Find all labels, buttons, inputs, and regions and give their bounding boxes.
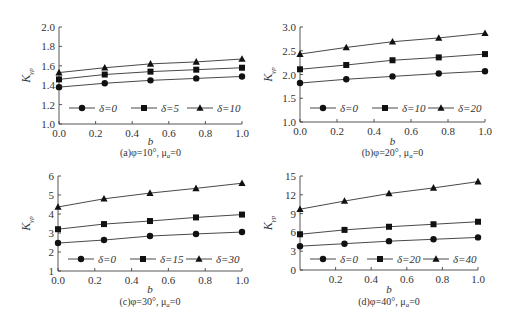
square-marker bbox=[239, 212, 245, 218]
series-square bbox=[297, 51, 488, 72]
triangle-marker bbox=[481, 29, 488, 36]
y-axis-label: Kγp bbox=[19, 68, 35, 84]
legend-label: δ=20 bbox=[397, 253, 421, 265]
diamond-marker bbox=[56, 84, 62, 90]
x-tick-label: 0.2 bbox=[89, 127, 103, 139]
diamond-marker bbox=[386, 238, 392, 244]
triangle-marker bbox=[195, 255, 202, 262]
square-marker bbox=[343, 62, 349, 68]
legend-label: δ=10 bbox=[402, 102, 426, 114]
series-square bbox=[55, 212, 245, 233]
x-tick-label: 0.4 bbox=[364, 273, 378, 285]
y-tick-label: 2.0 bbox=[282, 69, 296, 81]
square-marker bbox=[377, 256, 383, 262]
legend-label: δ=20 bbox=[458, 102, 482, 114]
legend-label: δ=5 bbox=[161, 102, 180, 114]
x-tick-label: 0.6 bbox=[162, 127, 176, 139]
series-diamond bbox=[297, 68, 488, 86]
subplot-caption: (a)φ=10°, μa=0 bbox=[120, 147, 181, 160]
y-tick-label: 1.2 bbox=[41, 99, 55, 111]
x-tick-label: 1.0 bbox=[471, 273, 485, 285]
triangle-marker bbox=[238, 55, 245, 62]
y-tick-label: 4 bbox=[49, 208, 55, 220]
x-tick-label: 0.2 bbox=[329, 273, 343, 285]
square-marker bbox=[193, 214, 199, 220]
x-tick-label: 1.0 bbox=[478, 125, 492, 137]
series-triangle bbox=[296, 29, 488, 57]
y-tick-label: 6 bbox=[291, 226, 297, 238]
y-tick-label: 3 bbox=[291, 245, 297, 257]
x-tick-label: 0.4 bbox=[367, 125, 381, 137]
triangle-marker bbox=[196, 104, 203, 111]
square-marker bbox=[239, 65, 245, 71]
square-marker bbox=[55, 226, 61, 232]
square-marker bbox=[297, 231, 303, 237]
diamond-marker bbox=[430, 236, 436, 242]
diamond-marker bbox=[482, 68, 488, 74]
square-marker bbox=[390, 57, 396, 63]
legend: δ=0δ=10δ=20 bbox=[310, 102, 482, 114]
legend: δ=0δ=15δ=30 bbox=[68, 253, 240, 265]
square-marker bbox=[193, 67, 199, 73]
y-tick-label: 6 bbox=[49, 170, 55, 182]
triangle-marker bbox=[474, 178, 481, 185]
diamond-marker bbox=[79, 105, 85, 111]
legend: δ=0δ=20δ=40 bbox=[310, 253, 477, 265]
subplot-a: 1.01.21.41.61.82.00.00.20.40.60.81.0Kγpb… bbox=[19, 21, 249, 160]
legend-entry: δ=5 bbox=[131, 102, 180, 114]
diamond-marker bbox=[102, 80, 108, 86]
legend-label: δ=0 bbox=[340, 102, 359, 114]
x-axis-label: b bbox=[147, 283, 153, 295]
series-diamond bbox=[56, 73, 245, 90]
x-tick-label: 0.6 bbox=[400, 273, 414, 285]
square-marker bbox=[148, 69, 154, 75]
square-marker bbox=[140, 256, 146, 262]
triangle-marker bbox=[432, 255, 439, 262]
series-triangle bbox=[54, 179, 245, 209]
y-tick-label: 5 bbox=[49, 189, 55, 201]
y-tick-label: 9 bbox=[291, 208, 297, 220]
x-axis-label: b bbox=[148, 135, 154, 147]
square-marker bbox=[297, 66, 303, 72]
triangle-marker bbox=[238, 179, 245, 186]
y-tick-label: 3.0 bbox=[282, 21, 296, 33]
diamond-marker bbox=[239, 73, 245, 79]
x-tick-label: 0.8 bbox=[199, 127, 213, 139]
y-axis-label: Kγp bbox=[261, 67, 277, 83]
legend-entry: δ=40 bbox=[423, 253, 477, 265]
x-tick-label: 0.6 bbox=[162, 274, 176, 286]
x-tick-label: 0.2 bbox=[330, 125, 344, 137]
diamond-marker bbox=[320, 105, 326, 111]
x-tick-label: 0.0 bbox=[51, 274, 65, 286]
legend-entry: δ=20 bbox=[428, 102, 482, 114]
legend-label: δ=10 bbox=[217, 102, 241, 114]
legend-label: δ=40 bbox=[453, 253, 477, 265]
figure-canvas: 1.01.21.41.61.82.00.00.20.40.60.81.0Kγpb… bbox=[0, 0, 518, 324]
subplot-b: 1.01.52.02.53.00.00.20.40.60.81.0Kγpb(b)… bbox=[261, 21, 492, 160]
diamond-marker bbox=[475, 234, 481, 240]
series-square bbox=[297, 219, 481, 238]
x-tick-label: 0.4 bbox=[125, 274, 139, 286]
square-marker bbox=[482, 51, 488, 57]
x-tick-label: 0.4 bbox=[125, 127, 139, 139]
legend-entry: δ=10 bbox=[372, 102, 426, 114]
subplot-caption: (d)φ=40°, μa=0 bbox=[358, 296, 420, 309]
legend-entry: δ=0 bbox=[310, 102, 359, 114]
legend-label: δ=0 bbox=[98, 253, 117, 265]
x-tick-label: 0.8 bbox=[441, 125, 455, 137]
diamond-marker bbox=[101, 237, 107, 243]
legend-entry: δ=0 bbox=[69, 102, 118, 114]
legend-entry: δ=15 bbox=[130, 253, 184, 265]
y-tick-label: 15 bbox=[285, 170, 297, 182]
diamond-marker bbox=[193, 231, 199, 237]
legend-label: δ=15 bbox=[160, 253, 184, 265]
square-marker bbox=[475, 219, 481, 225]
square-marker bbox=[141, 105, 147, 111]
y-tick-label: 0 bbox=[291, 264, 297, 276]
diamond-marker bbox=[341, 240, 347, 246]
legend-entry: δ=30 bbox=[186, 253, 240, 265]
x-tick-label: 0.2 bbox=[88, 274, 102, 286]
subplot-caption: (b)φ=20°, μa=0 bbox=[362, 147, 424, 160]
legend-label: δ=0 bbox=[99, 102, 118, 114]
square-marker bbox=[147, 218, 153, 224]
